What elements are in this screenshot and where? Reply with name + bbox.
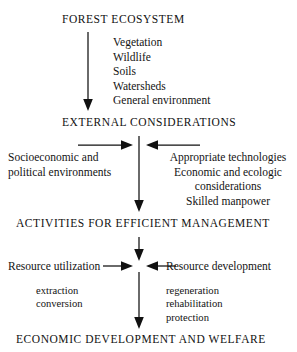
list-item: Appropriate technologies xyxy=(164,150,292,165)
list-item: considerations xyxy=(164,179,292,194)
label-resource-development: Resource development xyxy=(166,259,271,274)
flowchart-diagram: FOREST ECOSYSTEM Vegetation Wildlife Soi… xyxy=(0,0,297,352)
list-item: Socioeconomic and xyxy=(8,150,111,165)
stage-heading-activities-for-efficient-management: ACTIVITIES FOR EFFICIENT MANAGEMENT xyxy=(16,217,270,229)
list-item: Skilled manpower xyxy=(164,194,292,209)
list-item: rehabilitation xyxy=(166,297,222,310)
list-item: extraction xyxy=(36,284,82,297)
stage-heading-economic-development-and-welfare: ECONOMIC DEVELOPMENT AND WELFARE xyxy=(16,333,266,345)
list-item: Wildlife xyxy=(113,50,210,65)
list-item: General environment xyxy=(113,93,210,108)
arrow-external-to-activities xyxy=(134,136,144,212)
forest-ecosystem-components: Vegetation Wildlife Soils Watersheds Gen… xyxy=(113,35,210,108)
arrow-technologies-input xyxy=(146,140,200,150)
stage-heading-forest-ecosystem: FOREST ECOSYSTEM xyxy=(62,13,185,25)
arrow-convergence-to-economic-development xyxy=(134,272,144,329)
list-item: Soils xyxy=(113,64,210,79)
list-item: political environments xyxy=(8,165,111,180)
arrow-resource-utilization-input xyxy=(103,261,133,271)
label-resource-utilization: Resource utilization xyxy=(8,259,100,274)
resource-utilization-details: extraction conversion xyxy=(36,284,82,311)
arrow-activities-to-convergence xyxy=(134,237,144,261)
resource-development-details: regeneration rehabilitation protection xyxy=(166,284,222,324)
stage-heading-external-considerations: EXTERNAL CONSIDERATIONS xyxy=(62,116,236,128)
list-item: protection xyxy=(166,311,222,324)
arrow-forest-to-external xyxy=(83,32,93,111)
external-right-inputs: Appropriate technologies Economic and ec… xyxy=(164,150,292,208)
list-item: Vegetation xyxy=(113,35,210,50)
list-item: conversion xyxy=(36,297,82,310)
list-item: regeneration xyxy=(166,284,222,297)
arrow-socioeconomic-input xyxy=(78,140,133,150)
external-left-inputs: Socioeconomic and political environments xyxy=(8,150,111,179)
list-item: Watersheds xyxy=(113,79,210,94)
list-item: Economic and ecologic xyxy=(164,165,292,180)
